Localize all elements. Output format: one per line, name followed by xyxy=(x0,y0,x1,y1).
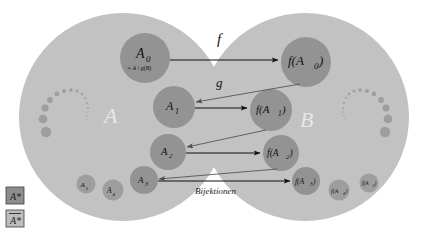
set-b-label: B xyxy=(300,107,313,132)
subset-fa4-label: f(A xyxy=(331,188,339,195)
subset-a0-sub: 0 xyxy=(146,54,151,64)
subset-a5-circle xyxy=(77,175,96,194)
subset-a2-label: A xyxy=(160,146,168,157)
subset-fa5-close: ) xyxy=(374,180,377,187)
subset-a2-circle xyxy=(150,134,186,170)
subset-fa0-close: ) xyxy=(318,53,323,68)
subset-fa2-label: f(A xyxy=(267,148,279,159)
legend-item-astar-dark: A* xyxy=(6,187,24,204)
set-a-label: A xyxy=(102,103,118,128)
subset-fa4-close: ) xyxy=(345,188,348,195)
subset-a1-circle xyxy=(153,86,195,128)
subset-a1-sub: 1 xyxy=(175,107,179,116)
subset-a3-circle xyxy=(130,166,158,194)
function-label-g: g xyxy=(216,75,223,90)
diagram-caption: Bijektionen xyxy=(195,186,236,196)
subset-a0-circle xyxy=(120,33,170,83)
subset-a4-circle xyxy=(103,180,124,201)
subset-fa2-close: ) xyxy=(289,148,293,159)
legend-label-astar-dark: A* xyxy=(9,191,21,202)
subset-a0-label: A xyxy=(135,46,145,61)
subset-fa1-label: f(A xyxy=(256,103,270,116)
subset-fa3-label: f(A xyxy=(295,177,305,186)
subset-a0-note: = A \ g(B) xyxy=(127,65,151,72)
subset-fa0-label: f(A xyxy=(288,53,304,68)
subset-fa3-close: ) xyxy=(312,177,316,186)
subset-fa5-label: f(A xyxy=(362,180,369,187)
subset-a1-label: A xyxy=(165,99,174,113)
subset-a2-sub: 2 xyxy=(169,152,173,160)
legend-label-astar-bar: A* xyxy=(9,215,21,226)
subset-a4-label: A xyxy=(106,186,112,195)
legend-item-astar-bar: A* xyxy=(6,210,24,227)
subset-a3-sub: 3 xyxy=(144,181,148,187)
set-diagram-svg: A B xyxy=(0,0,427,235)
diagram-canvas: A B xyxy=(0,0,427,235)
subset-a3-label: A xyxy=(137,175,144,185)
subset-fa1-close: ) xyxy=(281,103,286,116)
